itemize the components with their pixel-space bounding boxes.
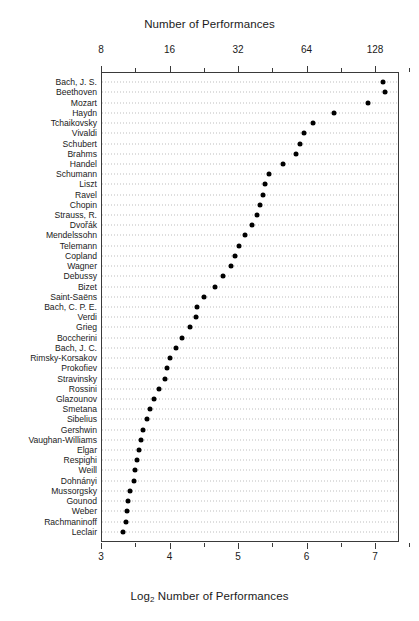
category-label: Boccherini bbox=[57, 333, 97, 342]
data-point bbox=[311, 121, 316, 126]
data-point bbox=[232, 253, 237, 258]
axis-tick-minor bbox=[409, 543, 410, 547]
top-axis bbox=[101, 72, 399, 73]
grid-line bbox=[102, 368, 398, 369]
axis-tick bbox=[101, 543, 102, 549]
axis-tick-minor bbox=[135, 68, 136, 72]
data-point bbox=[138, 437, 143, 442]
data-point bbox=[331, 110, 336, 115]
data-point bbox=[302, 131, 307, 136]
axis-tick-minor bbox=[204, 543, 205, 547]
category-label: Smetana bbox=[63, 405, 97, 414]
data-point bbox=[297, 141, 302, 146]
axis-tick bbox=[375, 66, 376, 72]
grid-line bbox=[102, 184, 398, 185]
top-tick-label: 8 bbox=[98, 44, 104, 55]
category-label: Elgar bbox=[77, 446, 97, 455]
data-point bbox=[220, 274, 225, 279]
data-point bbox=[127, 488, 132, 493]
data-point bbox=[123, 519, 128, 524]
data-point bbox=[293, 151, 298, 156]
grid-line bbox=[102, 337, 398, 338]
grid-line bbox=[102, 163, 398, 164]
data-point bbox=[201, 294, 206, 299]
category-label: Ravel bbox=[75, 190, 97, 199]
bottom-tick-label: 6 bbox=[304, 551, 310, 562]
bottom-tick-label: 4 bbox=[167, 551, 173, 562]
grid-line bbox=[102, 123, 398, 124]
grid-line bbox=[102, 521, 398, 522]
bottom-tick-label: 7 bbox=[372, 551, 378, 562]
data-point bbox=[366, 100, 371, 105]
grid-line bbox=[102, 204, 398, 205]
category-label: Gounod bbox=[66, 497, 97, 506]
grid-line bbox=[102, 235, 398, 236]
category-label: Bizet bbox=[78, 282, 97, 291]
category-label: Respighi bbox=[64, 456, 97, 465]
grid-line bbox=[102, 92, 398, 93]
category-label: Leclair bbox=[72, 527, 97, 536]
grid-line bbox=[102, 102, 398, 103]
grid-line bbox=[102, 296, 398, 297]
grid-line bbox=[102, 531, 398, 532]
grid-line bbox=[102, 347, 398, 348]
category-label: Dvořák bbox=[70, 221, 97, 230]
category-label: Beethoven bbox=[56, 88, 97, 97]
grid-line bbox=[102, 450, 398, 451]
x-axis-label: Log2 Number of Performances bbox=[0, 590, 419, 602]
category-label: Weill bbox=[79, 466, 97, 475]
grid-line bbox=[102, 480, 398, 481]
axis-tick-minor bbox=[204, 68, 205, 72]
axis-tick bbox=[170, 543, 171, 549]
grid-line bbox=[102, 378, 398, 379]
grid-line bbox=[102, 439, 398, 440]
top-tick-label: 32 bbox=[232, 44, 243, 55]
data-point bbox=[255, 213, 260, 218]
grid-line bbox=[102, 307, 398, 308]
grid-line bbox=[102, 490, 398, 491]
data-point bbox=[229, 264, 234, 269]
category-label: Wagner bbox=[67, 262, 97, 271]
category-label: Haydn bbox=[72, 109, 97, 118]
axis-tick bbox=[101, 66, 102, 72]
category-label: Copland bbox=[65, 252, 97, 261]
data-point bbox=[125, 509, 130, 514]
data-point bbox=[382, 90, 387, 95]
grid-line bbox=[102, 194, 398, 195]
axis-tick bbox=[238, 66, 239, 72]
category-label: Bach, J. S. bbox=[55, 78, 97, 87]
category-label: Stravinsky bbox=[57, 374, 97, 383]
category-label: Vaughan-Williams bbox=[28, 436, 97, 445]
grid-line bbox=[102, 174, 398, 175]
x-axis-label-suffix: Number of Performances bbox=[155, 590, 289, 602]
bottom-axis bbox=[101, 542, 399, 543]
category-label: Gershwin bbox=[61, 425, 97, 434]
grid-line bbox=[102, 470, 398, 471]
bottom-tick-label: 5 bbox=[235, 551, 241, 562]
category-label: Handel bbox=[70, 160, 97, 169]
category-label: Debussy bbox=[64, 272, 97, 281]
data-point bbox=[126, 499, 131, 504]
axis-tick-minor bbox=[272, 543, 273, 547]
data-point bbox=[134, 458, 139, 463]
top-tick-label: 64 bbox=[301, 44, 312, 55]
bottom-tick-label: 3 bbox=[98, 551, 104, 562]
category-labels: Bach, J. S.BeethovenMozartHaydnTchaikovs… bbox=[0, 0, 97, 621]
axis-tick bbox=[375, 543, 376, 549]
category-label: Rimsky-Korsakov bbox=[30, 354, 97, 363]
grid-line bbox=[102, 358, 398, 359]
data-point bbox=[242, 233, 247, 238]
data-point bbox=[174, 345, 179, 350]
category-label: Prokofiev bbox=[61, 364, 97, 373]
data-point bbox=[249, 223, 254, 228]
category-label: Rachmaninoff bbox=[44, 517, 97, 526]
grid-line bbox=[102, 112, 398, 113]
top-tick-label: 16 bbox=[164, 44, 175, 55]
grid-line bbox=[102, 398, 398, 399]
data-point bbox=[260, 192, 265, 197]
axis-tick-minor bbox=[409, 68, 410, 72]
data-point bbox=[133, 468, 138, 473]
category-label: Dohnányi bbox=[61, 476, 97, 485]
data-point bbox=[120, 529, 125, 534]
data-point bbox=[188, 325, 193, 330]
